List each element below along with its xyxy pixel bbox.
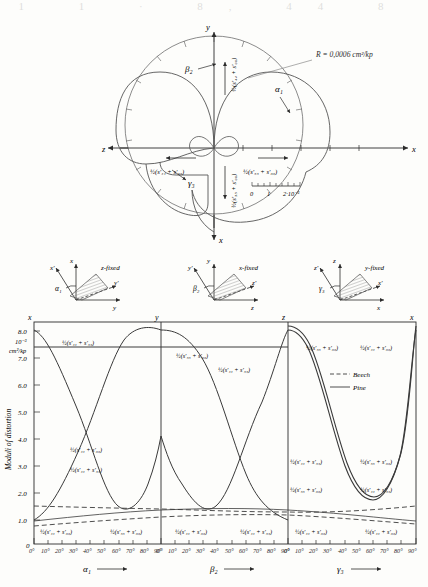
inset1-axis-x: x bbox=[69, 257, 74, 265]
ann-12: ½(s'₄₄ + s'₆₆) bbox=[40, 528, 72, 536]
ytick-8: 8.0 bbox=[18, 328, 27, 336]
lobe-tail bbox=[192, 190, 214, 232]
svg-text:40°: 40° bbox=[83, 547, 92, 554]
legend-pine-label: Pine bbox=[352, 384, 366, 392]
inset3-axis-zp: z' bbox=[313, 264, 319, 272]
inset2-axis-yp: y' bbox=[187, 264, 193, 272]
polar-label-x: x bbox=[411, 144, 416, 154]
svg-text:80°: 80° bbox=[140, 547, 149, 554]
polar-gamma3-label: γ₃ bbox=[188, 178, 195, 188]
svg-text:80°: 80° bbox=[267, 547, 276, 554]
svg-text:70°: 70° bbox=[126, 547, 135, 554]
figure-container: R = 0,0006 cm²/kp y x x z β₂ α₁ γ₃ ½(s'₄… bbox=[0, 0, 428, 587]
ann-14: ½(s'₄₄ + s'₆₆) bbox=[175, 528, 207, 536]
panel-axis-right: x bbox=[409, 313, 414, 322]
modulus-label-left: ½(s'₄₄ + s'₅₅) bbox=[150, 168, 184, 176]
lobe-gamma-right bbox=[192, 172, 306, 222]
panel-gamma-ticklabels: 0° 10° 20° 30° 40° 50° 60° 70° 80° 90° bbox=[284, 547, 417, 554]
ann-17: ½(s'₄₄ + s'₆₆) bbox=[365, 528, 397, 536]
modulus-label-right: ½(s'₅₅ + s'₆₆) bbox=[243, 168, 277, 176]
inset3-axis-xp: x' bbox=[377, 279, 383, 287]
ytick-6: 6.0 bbox=[18, 382, 27, 390]
lobe-beta bbox=[116, 72, 214, 164]
panel-beta-ticklabels: 0° 10° 20° 30° 40° 50° 60° 70° 80° 90° bbox=[156, 547, 290, 554]
svg-text:20°: 20° bbox=[182, 547, 191, 554]
radius-leader bbox=[248, 60, 312, 78]
ann-15: ½(s'₄₄ + s'₅₅) bbox=[240, 528, 272, 536]
svg-text:60°: 60° bbox=[366, 547, 375, 554]
figure-svg: R = 0,0006 cm²/kp y x x z β₂ α₁ γ₃ ½(s'₄… bbox=[0, 0, 428, 587]
inset-y-fixed: z x z' x' γ₃ y-fixed bbox=[313, 257, 385, 312]
svg-text:0°: 0° bbox=[29, 547, 35, 554]
polar-alpha1-leader bbox=[280, 97, 290, 113]
svg-text:40°: 40° bbox=[338, 547, 347, 554]
polar-diagram: R = 0,0006 cm²/kp y x x z β₂ α₁ γ₃ ½(s'₄… bbox=[101, 22, 416, 245]
chart-legend: Beech Pine bbox=[330, 371, 371, 392]
svg-text:20°: 20° bbox=[309, 547, 318, 554]
panel-alpha-ticklabels: 0° 10° 20° 30° 40° 50° 60° 70° 80° 90° bbox=[29, 547, 163, 554]
inset1-caption: z-fixed bbox=[100, 264, 120, 272]
curve-beech-lower bbox=[34, 515, 416, 526]
inset3-angle-label: γ₃ bbox=[319, 284, 325, 293]
ann-2: ½(s'₅₅ + s'₆₆) bbox=[176, 352, 208, 360]
polar-alpha1-label: α₁ bbox=[275, 84, 283, 94]
svg-text:50°: 50° bbox=[225, 547, 234, 554]
inner-lobe-right bbox=[214, 136, 239, 156]
svg-text:60°: 60° bbox=[112, 547, 121, 554]
inset1-axis-yp: y' bbox=[113, 279, 119, 287]
polar-beta2-leader bbox=[198, 64, 216, 69]
ytick-3: 3.0 bbox=[17, 463, 27, 471]
svg-text:0°: 0° bbox=[156, 547, 162, 554]
ann-1: ½(s'₄₄ + s'₅₅) bbox=[62, 339, 94, 347]
ytick-5: 5.0 bbox=[18, 409, 27, 417]
modulus-label-down: ½(s'₅₅ + s'₆₆) bbox=[230, 174, 238, 208]
svg-text:30°: 30° bbox=[195, 547, 205, 554]
inner-lobe-left bbox=[190, 136, 215, 156]
ytick-1: 1.0 bbox=[18, 517, 27, 525]
ytick-7: 7.0 bbox=[18, 355, 27, 363]
inset2-angle-label: β₂ bbox=[192, 284, 200, 293]
ann-9: ½(s'₅₅ + s'₆₆) bbox=[360, 458, 392, 466]
svg-text:40°: 40° bbox=[210, 547, 219, 554]
svg-text:30°: 30° bbox=[322, 547, 332, 554]
ann-5: ½(s'₄₄ + s'₆₆) bbox=[360, 344, 392, 352]
y-ticks bbox=[34, 331, 40, 520]
polar-label-y: y bbox=[205, 22, 210, 32]
ann-13: ½(s'₅₅ + s'₆₆) bbox=[110, 528, 142, 536]
curve-p3-b bbox=[288, 326, 416, 497]
ann-10: ½(s'₅₅ + s'₆₆) bbox=[290, 486, 322, 494]
scale-tick-1: 1 bbox=[267, 190, 270, 197]
svg-text:70°: 70° bbox=[253, 547, 262, 554]
ann-8: ½(s'₄₄ + s'₅₅) bbox=[290, 458, 322, 466]
modulus-label-up: ½(s'₄₄ + s'₆₆) bbox=[230, 58, 238, 92]
svg-text:10°: 10° bbox=[41, 547, 50, 554]
ann-6: ½(s'₄₄ + s'₆₆) bbox=[70, 446, 102, 454]
svg-text:20°: 20° bbox=[55, 547, 64, 554]
svg-text:50°: 50° bbox=[97, 547, 106, 554]
polar-beta2-label: β₂ bbox=[184, 64, 193, 74]
scale-tick-2: 2·10⁻³ bbox=[283, 190, 299, 197]
y-unit-base: cm²/kp bbox=[9, 347, 26, 354]
svg-text:70°: 70° bbox=[380, 547, 389, 554]
radius-note: R = 0,0006 cm²/kp bbox=[315, 50, 373, 59]
inset2-caption: x-fixed bbox=[238, 264, 259, 272]
x-ticks bbox=[34, 538, 416, 544]
svg-text:60°: 60° bbox=[239, 547, 248, 554]
inset1-angle-label: α₁ bbox=[55, 284, 62, 293]
curve-p1-b bbox=[34, 327, 161, 520]
panel-axis-left: x bbox=[27, 313, 32, 322]
svg-text:80°: 80° bbox=[394, 547, 403, 554]
ann-3: ½(s'₄₄ + s'₅₅) bbox=[218, 366, 250, 374]
curve-beech-upper bbox=[34, 506, 416, 512]
y-axis-title: Moduli of distortion bbox=[4, 409, 13, 471]
inset-z-fixed: x y x' y' α₁ z-fixed bbox=[49, 257, 120, 312]
panel-axis-mid1: y bbox=[154, 313, 159, 322]
ytick-4: 4.0 bbox=[18, 436, 27, 444]
ann-16: ½(s'₄₄ + s'₆₆) bbox=[295, 528, 327, 536]
inset2-axis-zp: z' bbox=[251, 279, 257, 287]
inset2-axis-y: y bbox=[206, 257, 211, 265]
panel-beta-title: β₂ bbox=[209, 564, 218, 574]
inset2-axis-z: z bbox=[250, 304, 254, 312]
polar-label-x-down: x bbox=[218, 235, 223, 245]
inset1-axis-xp: x' bbox=[49, 264, 55, 272]
